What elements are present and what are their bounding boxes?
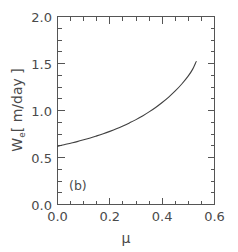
y-axis-minor-ticks (58, 28, 215, 193)
chart-figure: 0.0 0.5 1.0 1.5 2.0 0.0 0.2 0.4 0.6 μ We… (0, 0, 238, 252)
x-axis-title: μ (122, 230, 131, 246)
data-series-line (58, 62, 197, 147)
x-axis-minor-ticks (71, 17, 202, 205)
y-axis-title-units: [ m/day ] (9, 68, 25, 132)
x-tick-labels: 0.0 0.2 0.4 0.6 (47, 209, 225, 224)
x-tick-label: 0.6 (204, 209, 225, 224)
x-tick-label: 0.2 (99, 209, 120, 224)
y-tick-labels: 0.0 0.5 1.0 1.5 2.0 (31, 10, 52, 213)
y-axis-major-ticks (58, 17, 215, 205)
y-tick-label: 0.5 (31, 151, 52, 166)
y-tick-label: 1.5 (31, 57, 52, 72)
chart-canvas: 0.0 0.5 1.0 1.5 2.0 0.0 0.2 0.4 0.6 μ We… (0, 0, 238, 252)
x-axis-major-ticks (58, 17, 215, 205)
plot-frame (58, 17, 215, 205)
panel-label: (b) (69, 178, 87, 193)
y-axis-title-base: W (9, 138, 25, 152)
svg-text:We[ m/day ]: We[ m/day ] (9, 68, 27, 151)
y-tick-label: 2.0 (31, 10, 52, 25)
x-tick-label: 0.0 (47, 209, 68, 224)
y-tick-label: 1.0 (31, 104, 52, 119)
y-axis-title: We[ m/day ] (9, 68, 27, 151)
x-tick-label: 0.4 (152, 209, 173, 224)
